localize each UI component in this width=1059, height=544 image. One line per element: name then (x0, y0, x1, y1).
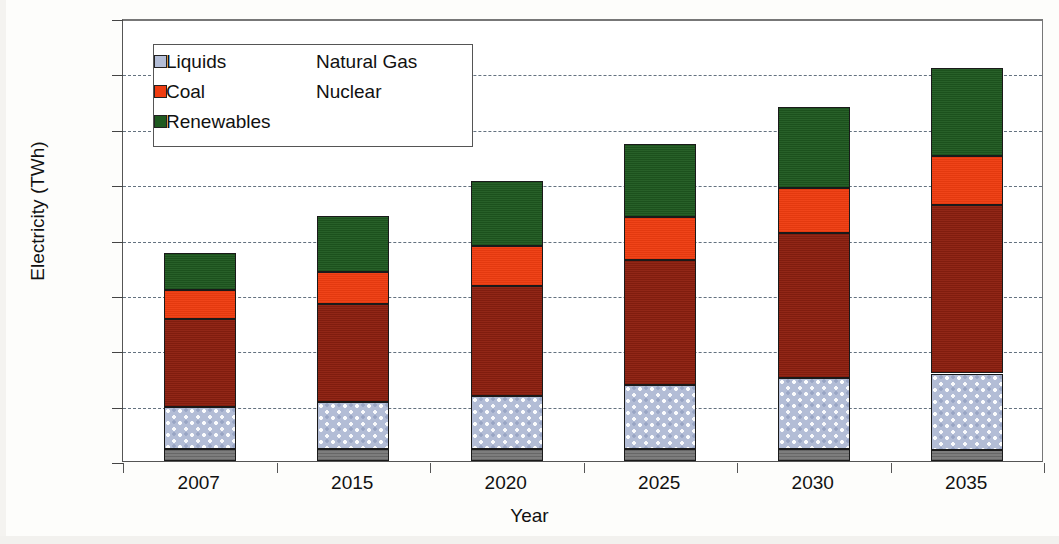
x-tick-mark (1044, 463, 1045, 473)
legend-item-natural-gas: Natural Gas (316, 52, 417, 71)
bar-segment-liquids (778, 449, 850, 461)
bar-segment-natural-gas (624, 385, 696, 449)
y-tick-mark (112, 20, 123, 21)
x-tick-label: 2020 (436, 472, 576, 494)
x-tick-mark (430, 463, 431, 473)
legend-swatch-renewables (154, 115, 167, 128)
scan-edge-left (0, 0, 6, 544)
y-tick-mark (112, 75, 123, 76)
bar-segment-nuclear (778, 188, 850, 233)
bar-segment-renewables (931, 68, 1003, 157)
bar-segment-renewables (317, 216, 389, 271)
x-tick-mark (123, 463, 124, 473)
x-axis-title: Year (0, 505, 1059, 527)
x-tick-label: 2025 (589, 472, 729, 494)
bar-segment-liquids (471, 449, 543, 461)
x-tick-mark (584, 463, 585, 473)
legend: Liquids Natural Gas Coal Nuclear Renewab… (153, 44, 473, 147)
y-tick-mark (112, 408, 123, 409)
y-tick-mark (112, 242, 123, 243)
x-tick-label: 2007 (129, 472, 269, 494)
bar-segment-renewables (164, 253, 236, 291)
bar-segment-nuclear (317, 272, 389, 304)
bar-segment-natural-gas (778, 378, 850, 449)
stacked-bar-chart: Electricity (TWh) 0500010000150002000025… (0, 0, 1059, 544)
bar-segment-nuclear (624, 217, 696, 260)
bar-2025 (624, 18, 696, 461)
legend-item-coal: Coal (166, 82, 316, 101)
bar-2035 (931, 18, 1003, 461)
bar-segment-liquids (317, 449, 389, 461)
bar-segment-liquids (624, 449, 696, 461)
bar-segment-nuclear (471, 246, 543, 286)
legend-item-nuclear: Nuclear (316, 82, 381, 101)
bar-segment-coal (931, 205, 1003, 373)
x-tick-mark (891, 463, 892, 473)
scan-edge-bottom (0, 536, 1059, 544)
x-tick-label: 2030 (743, 472, 883, 494)
legend-item-liquids: Liquids (166, 52, 316, 71)
bar-segment-coal (778, 233, 850, 378)
y-tick-mark (112, 186, 123, 187)
bar-segment-natural-gas (471, 396, 543, 449)
y-tick-mark (112, 463, 123, 464)
bar-segment-coal (317, 304, 389, 403)
bar-segment-natural-gas (164, 407, 236, 449)
legend-label-nuclear: Nuclear (316, 82, 381, 101)
bar-segment-liquids (931, 450, 1003, 461)
legend-label-natural-gas: Natural Gas (316, 52, 417, 71)
bar-segment-renewables (471, 181, 543, 246)
bar-2030 (778, 18, 850, 461)
bar-segment-coal (624, 260, 696, 385)
bar-segment-natural-gas (317, 402, 389, 449)
bar-segment-coal (471, 286, 543, 396)
legend-swatch-nuclear (154, 85, 167, 98)
legend-label-coal: Coal (166, 82, 205, 101)
x-tick-label: 2035 (896, 472, 1036, 494)
legend-item-renewables: Renewables (166, 112, 271, 131)
x-tick-mark (737, 463, 738, 473)
legend-label-renewables: Renewables (166, 112, 271, 131)
y-tick-mark (112, 352, 123, 353)
bar-segment-nuclear (164, 290, 236, 319)
y-axis-title: Electricity (TWh) (27, 81, 49, 341)
legend-row: Renewables (166, 112, 462, 142)
bar-segment-renewables (778, 107, 850, 188)
y-tick-mark (112, 297, 123, 298)
legend-row: Liquids Natural Gas (166, 52, 462, 82)
x-tick-label: 2015 (282, 472, 422, 494)
bar-segment-nuclear (931, 156, 1003, 205)
x-tick-mark (277, 463, 278, 473)
bar-segment-natural-gas (931, 374, 1003, 450)
bar-2020 (471, 18, 543, 461)
bar-segment-liquids (164, 449, 236, 461)
bar-segment-coal (164, 319, 236, 406)
bar-segment-renewables (624, 144, 696, 217)
legend-label-liquids: Liquids (166, 52, 226, 71)
legend-swatch-natural-gas (154, 55, 167, 68)
legend-row: Coal Nuclear (166, 82, 462, 112)
y-tick-mark (112, 131, 123, 132)
